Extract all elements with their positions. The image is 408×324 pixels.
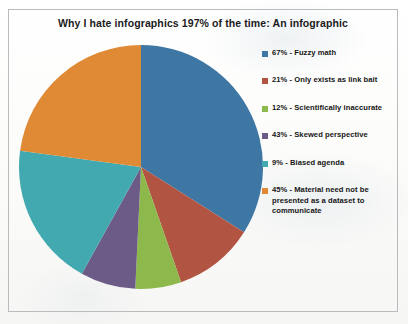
legend-swatch-icon xyxy=(262,78,268,84)
pie-slice xyxy=(20,45,141,167)
pie-chart xyxy=(16,43,266,293)
legend-item-label: 67% - Fuzzy math xyxy=(272,48,336,58)
legend-item-label: 21% - Only exists as link bait xyxy=(272,75,377,85)
legend-item-label: 45% - Material need not be presented as … xyxy=(272,185,402,216)
legend-swatch-icon xyxy=(262,161,268,167)
chart-legend: 67% - Fuzzy math21% - Only exists as lin… xyxy=(262,48,402,234)
legend-item-label: 9% - Biased agenda xyxy=(272,158,344,168)
legend-swatch-icon xyxy=(262,188,268,194)
legend-swatch-icon xyxy=(262,106,268,112)
legend-item: 12% - Scientifically inaccurate xyxy=(262,103,402,113)
legend-item: 21% - Only exists as link bait xyxy=(262,75,402,85)
legend-swatch-icon xyxy=(262,133,268,139)
legend-item-label: 12% - Scientifically inaccurate xyxy=(272,103,382,113)
legend-item-label: 43% - Skewed perspective xyxy=(272,130,368,140)
pie-chart-svg xyxy=(16,43,266,293)
screenshot-page: Why I hate infographics 197% of the time… xyxy=(0,0,408,324)
pie-slice-group xyxy=(19,45,263,289)
legend-swatch-icon xyxy=(262,51,268,57)
chart-title: Why I hate infographics 197% of the time… xyxy=(8,17,398,29)
legend-item: 9% - Biased agenda xyxy=(262,158,402,168)
legend-item: 45% - Material need not be presented as … xyxy=(262,185,402,216)
legend-item: 43% - Skewed perspective xyxy=(262,130,402,140)
legend-item: 67% - Fuzzy math xyxy=(262,48,402,58)
